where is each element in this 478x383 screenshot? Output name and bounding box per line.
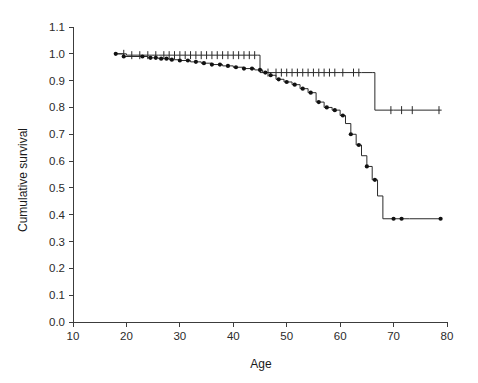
y-tick-label: 0.1: [49, 289, 65, 301]
censor-marker: [178, 58, 182, 62]
censor-marker: [170, 58, 174, 62]
censor-marker: [317, 100, 321, 104]
x-tick-label: 60: [334, 330, 347, 342]
censor-marker: [301, 87, 305, 91]
censor-marker: [234, 65, 238, 69]
censor-marker: [114, 52, 118, 56]
censor-marker: [285, 80, 289, 84]
censor-marker: [333, 108, 337, 112]
y-tick-label: 0.6: [49, 155, 65, 167]
x-tick-label: 80: [441, 330, 454, 342]
y-tick-label: 1.1: [49, 21, 65, 33]
censor-marker: [186, 58, 190, 62]
y-tick-label: 0.9: [49, 75, 65, 87]
censor-marker: [122, 54, 126, 58]
x-tick-label: 70: [387, 330, 400, 342]
censor-marker: [399, 217, 403, 221]
censor-marker: [258, 68, 262, 72]
censor-marker: [210, 62, 214, 66]
censor-marker: [391, 217, 395, 221]
y-tick-label: 0.3: [49, 236, 65, 248]
y-tick-label: 0.2: [49, 262, 65, 274]
censor-marker: [365, 164, 369, 168]
x-tick-label: 20: [120, 330, 133, 342]
censor-marker: [218, 62, 222, 66]
censor-marker: [263, 70, 267, 74]
censor-marker: [154, 56, 158, 60]
censor-marker: [140, 54, 144, 58]
censor-marker: [325, 105, 329, 109]
y-tick-label: 0.0: [49, 316, 65, 328]
censor-marker: [148, 56, 152, 60]
y-tick-label: 0.8: [49, 101, 65, 113]
censor-marker: [164, 57, 168, 61]
censor-marker: [277, 77, 281, 81]
y-tick-label: 0.5: [49, 182, 65, 194]
censor-marker: [202, 61, 206, 65]
censor-marker: [250, 66, 254, 70]
censor-marker: [349, 132, 353, 136]
x-tick-label: 10: [67, 330, 80, 342]
censor-marker: [293, 83, 297, 87]
censor-marker: [159, 57, 163, 61]
censor-marker: [194, 60, 198, 64]
x-axis-title: Age: [250, 357, 272, 371]
censor-marker: [357, 143, 361, 147]
censor-marker: [309, 91, 313, 95]
censor-marker: [269, 73, 273, 77]
survival-chart-figure: 0.00.10.20.30.40.50.60.70.80.91.01.1 102…: [0, 0, 478, 383]
y-tick-label: 0.4: [49, 209, 66, 221]
x-tick-label: 40: [227, 330, 240, 342]
x-tick-label: 50: [280, 330, 293, 342]
kaplan-meier-plot: 0.00.10.20.30.40.50.60.70.80.91.01.1 102…: [0, 0, 478, 383]
censor-marker: [341, 113, 345, 117]
x-tick-label: 30: [173, 330, 186, 342]
y-axis-title: Cumulative survival: [16, 128, 30, 232]
censor-marker: [242, 66, 246, 70]
censor-marker: [438, 217, 442, 221]
censor-marker: [226, 64, 230, 68]
censor-marker: [373, 178, 377, 182]
y-tick-label: 0.7: [49, 128, 65, 140]
y-tick-label: 1.0: [49, 48, 65, 60]
